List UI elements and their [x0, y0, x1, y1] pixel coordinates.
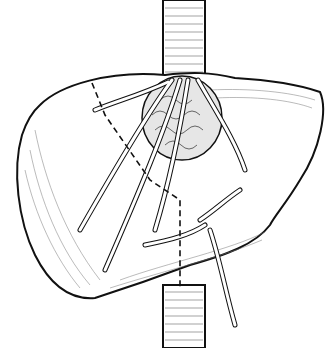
vena-cava-upper: [163, 0, 205, 80]
liver-illustration: [0, 0, 333, 348]
vena-cava-lower: [163, 285, 205, 348]
